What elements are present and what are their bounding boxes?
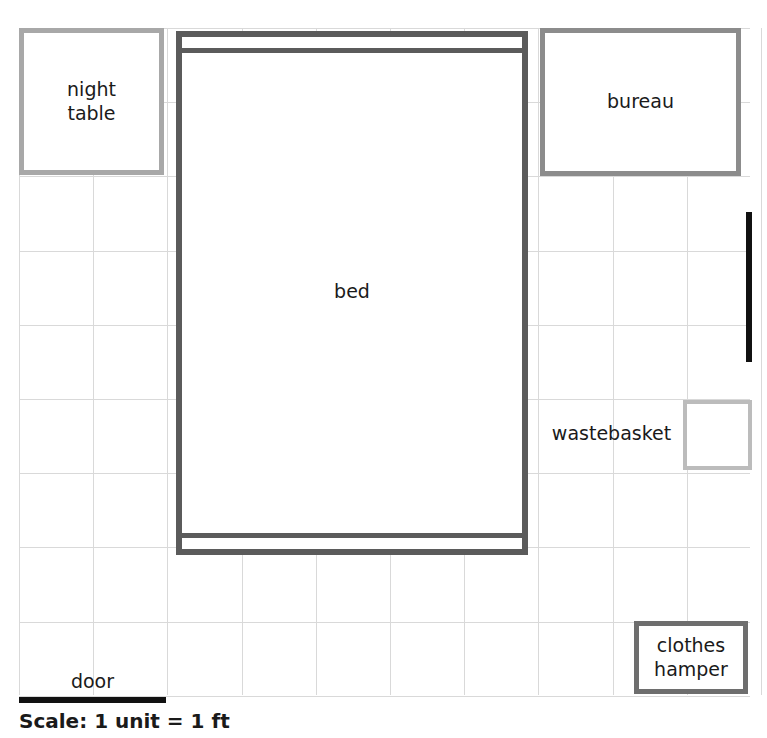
furniture-bureau: bureau	[540, 28, 741, 176]
furniture-night-table: night table	[19, 28, 164, 175]
grid-line-vertical	[167, 28, 168, 695]
bed-label: bed	[182, 280, 522, 303]
grid-line-vertical	[538, 28, 539, 695]
bureau-label: bureau	[607, 90, 674, 113]
clothes-hamper-label-line2: hamper	[654, 658, 728, 681]
wastebasket-label: wastebasket	[540, 422, 683, 444]
floor-plan-diagram: night table bureau bed wastebasket cloth…	[0, 0, 767, 738]
bed-footboard-line	[182, 533, 522, 538]
furniture-bed: bed	[176, 31, 528, 555]
door-right-bar	[746, 212, 752, 362]
furniture-clothes-hamper: clothes hamper	[634, 621, 748, 694]
door-bottom-label: door	[19, 670, 166, 692]
furniture-wastebasket	[683, 400, 752, 470]
night-table-label: night table	[67, 78, 116, 124]
night-table-label-line1: night	[67, 78, 116, 100]
clothes-hamper-label-line1: clothes	[657, 634, 725, 657]
scale-caption: Scale: 1 unit = 1 ft	[19, 709, 230, 733]
bed-headboard-line	[182, 48, 522, 53]
night-table-label-line2: table	[67, 102, 115, 124]
grid-line-vertical	[761, 28, 762, 695]
door-bottom-bar	[19, 697, 166, 703]
